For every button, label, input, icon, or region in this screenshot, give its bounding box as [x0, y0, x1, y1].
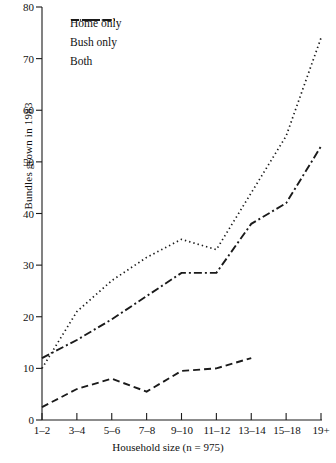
legend-label: Bush only — [70, 37, 117, 49]
plot-area — [0, 0, 336, 463]
x-tick-label: 19+ — [312, 424, 329, 436]
x-tick-label: 5–6 — [104, 424, 121, 436]
x-tick-label: 3–4 — [69, 424, 86, 436]
legend-item-both: Both — [70, 52, 121, 71]
series-lines — [42, 38, 321, 407]
series-line — [42, 38, 321, 368]
y-axis-ticks — [36, 7, 42, 420]
legend-label: Both — [70, 56, 92, 68]
legend-item-bush-only: Bush only — [70, 33, 121, 52]
x-tick-label: 15–18 — [273, 424, 301, 436]
x-tick-label: 7–8 — [139, 424, 156, 436]
legend-key-dotted-icon — [70, 14, 116, 26]
chart-legend: Home only Bush only Both — [70, 14, 121, 71]
x-axis-title: Household size (n = 975) — [0, 441, 336, 453]
x-axis-ticks — [42, 413, 321, 420]
x-tick-label: 1–2 — [34, 424, 51, 436]
x-tick-label: 9–10 — [171, 424, 193, 436]
line-chart: Bundles grown in 1983 80 70 60 50 40 30 … — [0, 0, 336, 463]
series-line — [42, 358, 251, 407]
x-tick-label: 13–14 — [238, 424, 266, 436]
x-tick-label: 11–12 — [203, 424, 230, 436]
series-line — [42, 146, 321, 358]
